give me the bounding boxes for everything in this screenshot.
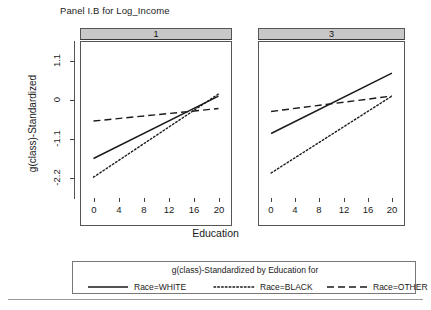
x-tick-label: 4 [285,204,305,215]
x-tick-mark [295,198,296,202]
x-tick-mark [319,198,320,202]
x-tick-label: 16 [358,204,378,215]
x-axis-label: Education [0,227,431,239]
x-tick-mark [344,198,345,202]
legend-label: Race=WHITE [134,282,186,292]
y-tick-mark [70,178,75,179]
x-tick-label: 20 [209,204,229,215]
x-tick-label: 20 [382,204,402,215]
legend-key-dashed-icon [326,282,368,292]
series-line-black [94,94,219,177]
x-tick-mark [94,198,95,202]
y-tick-mark [70,139,75,140]
legend: g(class)-Standardized by Education for R… [72,261,416,294]
legend-entry-white: Race=WHITE [87,280,186,293]
plot-area [80,41,232,226]
y-axis-line [74,41,75,199]
x-tick-mark [144,198,145,202]
y-tick-label: -2.2 [51,166,62,190]
y-tick-label: -1.1 [51,127,62,151]
series-line-black [271,96,392,173]
chart-title: Panel I.B for Log_Income [60,5,170,16]
series-line-white [94,96,219,158]
x-tick-mark [271,198,272,202]
x-tick-mark [392,198,393,202]
x-tick-label: 8 [134,204,154,215]
x-tick-label: 0 [261,204,281,215]
y-tick-mark [70,100,75,101]
series-line-other [271,96,392,111]
x-tick-mark [368,198,369,202]
legend-key-solid-icon [87,282,129,292]
x-tick-label: 4 [109,204,129,215]
x-tick-label: 16 [184,204,204,215]
plot-area [258,41,405,226]
panel-header-label: 1 [80,28,232,40]
x-tick-label: 12 [159,204,179,215]
x-tick-mark [169,198,170,202]
panel-header-label: 3 [258,28,405,40]
legend-key-dotted-icon [213,282,255,292]
y-axis-label: g(class)-Standardized [27,44,38,204]
legend-label: Race=OTHER [373,282,428,292]
legend-entry-list: Race=WHITERace=BLACKRace=OTHER [73,280,417,293]
series-line-other [94,109,219,121]
bottom-divider [8,299,423,300]
legend-entry-black: Race=BLACK [213,280,313,293]
chart-container: Panel I.B for Log_Income g(class)-Standa… [0,0,431,310]
legend-label: Race=BLACK [260,282,313,292]
legend-entry-other: Race=OTHER [326,280,428,293]
x-tick-label: 8 [309,204,329,215]
x-tick-label: 12 [334,204,354,215]
y-tick-mark [70,61,75,62]
y-tick-label: 0 [51,88,62,112]
x-tick-mark [194,198,195,202]
x-tick-mark [219,198,220,202]
series-canvas [81,42,231,225]
legend-title: g(class)-Standardized by Education for [73,265,417,275]
y-tick-label: 1.1 [51,49,62,73]
series-canvas [259,42,404,225]
x-tick-mark [119,198,120,202]
x-tick-label: 0 [84,204,104,215]
